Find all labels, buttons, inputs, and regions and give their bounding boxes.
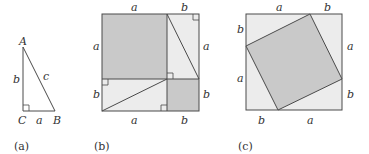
top-a-label: a (276, 1, 283, 14)
vertex-C-label: C (18, 114, 27, 127)
vertex-B-label: B (52, 114, 61, 127)
side-c-label: c (43, 70, 49, 83)
right-b-label: b (203, 88, 210, 101)
top-a-label: a (131, 1, 138, 14)
top-b-label: b (181, 1, 188, 14)
bottom-a-label: a (307, 114, 314, 127)
caption-c: (c) (238, 140, 253, 153)
right-angle-mark (23, 105, 29, 111)
figure-c-square: a b b a b a a b (c) (237, 1, 354, 153)
left-a-label: a (93, 40, 100, 53)
caption-b: (b) (94, 140, 110, 153)
side-a-label: a (36, 114, 43, 127)
top-b-label: b (324, 1, 331, 14)
figure-b-square: a b a b a b a b (b) (93, 1, 210, 153)
figure-a-triangle: A C B b a c (a) (13, 35, 61, 153)
pythagorean-diagram: A C B b a c (a) a b a b a b a b (b) a b (0, 0, 369, 154)
left-b-label: b (237, 23, 244, 36)
bottom-b-label: b (181, 114, 188, 127)
right-triangle (23, 47, 55, 111)
a-squared-region (102, 14, 167, 79)
vertex-A-label: A (18, 35, 27, 48)
right-a-label: a (203, 40, 210, 53)
side-b-label: b (13, 73, 20, 86)
right-b-label: b (347, 88, 354, 101)
caption-a: (a) (14, 140, 29, 153)
left-a-label: a (237, 72, 244, 85)
bottom-b-label: b (258, 114, 265, 127)
b-squared-region (167, 79, 199, 111)
bottom-a-label: a (131, 114, 138, 127)
left-b-label: b (93, 88, 100, 101)
right-a-label: a (347, 40, 354, 53)
